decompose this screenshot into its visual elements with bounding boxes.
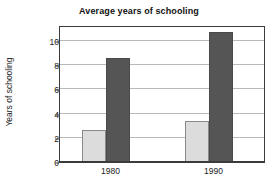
chart-title: Average years of schooling (0, 6, 278, 16)
y-tick-label: 0 (23, 159, 59, 168)
y-tick-label: 8 (23, 62, 59, 71)
x-tick-label: 1980 (101, 166, 120, 176)
x-tick-label: 1990 (204, 166, 223, 176)
y-tick-label: 4 (23, 110, 59, 119)
y-tick-label: 10 (23, 38, 59, 47)
y-axis-title-wrap: Years of schooling (2, 22, 16, 162)
bars-layer (60, 27, 264, 162)
bar-1990-light-series (185, 121, 209, 162)
y-tick-label: 2 (23, 135, 59, 144)
axis-baseline (60, 161, 264, 162)
plot-area (59, 26, 265, 163)
y-axis-title: Years of schooling (4, 57, 14, 126)
y-axis-tick-labels: 0246810 (19, 26, 59, 163)
bar-1980-dark-series (106, 58, 130, 162)
y-tick-label: 6 (23, 86, 59, 95)
bar-1980-light-series (82, 130, 106, 162)
bar-1990-dark-series (209, 32, 233, 162)
bar-chart: Average years of schooling Years of scho… (0, 0, 278, 186)
x-axis-tick-labels: 19801990 (59, 166, 265, 182)
